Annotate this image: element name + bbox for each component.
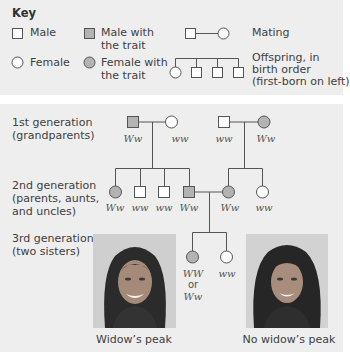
genotype-gen3-left-1: WW <box>183 268 204 279</box>
key-offspring-male-icon <box>234 68 244 78</box>
genotype-gen1-3: ww <box>215 133 232 144</box>
key-mating-male-icon <box>186 29 196 39</box>
gen1-grandfather-right-icon <box>219 117 230 128</box>
key-female-trait-icon <box>84 57 95 68</box>
genotype-gen3-left-or: or <box>188 279 198 290</box>
gen2-father-icon <box>184 187 195 198</box>
genotype-gen3-left-2: Ww <box>184 291 203 302</box>
genotype-gen2-6: ww <box>255 202 272 213</box>
key-offspring-male-icon <box>213 68 223 78</box>
genotype-gen2-1: Ww <box>106 202 125 213</box>
gen3-sister-no-widows-peak-icon <box>221 251 233 263</box>
gen2-mother-icon <box>223 186 235 198</box>
key-offspring-female-icon <box>170 67 181 78</box>
genotype-gen1-2: ww <box>171 133 188 144</box>
gen1-grandfather-left-icon <box>128 117 139 128</box>
genotype-gen2-3: ww <box>155 202 172 213</box>
gen3-sister-widows-peak-icon <box>187 251 199 263</box>
genotype-gen2-2: ww <box>131 202 148 213</box>
key-female-icon <box>12 57 23 68</box>
genotype-gen2-4: Ww <box>180 202 199 213</box>
genotype-gen1-4: Ww <box>257 133 276 144</box>
gen2-uncle-icon <box>159 187 170 198</box>
gen1-grandmother-right-icon <box>258 116 270 128</box>
key-offspring-male-icon <box>192 68 202 78</box>
key-mating-female-icon <box>218 28 229 39</box>
gen2-aunt-icon <box>110 186 122 198</box>
genotype-gen3-right: ww <box>218 268 235 279</box>
gen2-aunt-icon <box>257 186 269 198</box>
key-male-icon <box>13 29 23 39</box>
genotype-gen2-5: Ww <box>221 202 240 213</box>
key-male-trait-icon <box>85 29 95 39</box>
gen2-uncle-icon <box>135 187 146 198</box>
genotype-gen1-1: Ww <box>124 133 143 144</box>
gen1-grandmother-left-icon <box>166 116 178 128</box>
